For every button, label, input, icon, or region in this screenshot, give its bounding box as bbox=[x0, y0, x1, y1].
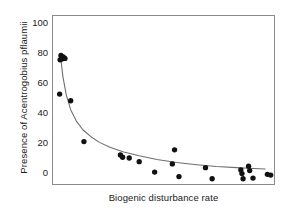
data-point bbox=[127, 155, 132, 160]
data-point bbox=[137, 159, 142, 164]
y-tick-label: 0 bbox=[26, 168, 48, 178]
data-point bbox=[250, 175, 255, 180]
data-point bbox=[172, 147, 177, 152]
data-points-group bbox=[57, 53, 273, 182]
fit-curve-group bbox=[61, 56, 266, 169]
y-tick-label: 60 bbox=[26, 78, 48, 88]
y-tick-label: 40 bbox=[26, 108, 48, 118]
data-point bbox=[62, 56, 67, 61]
data-point bbox=[209, 176, 214, 181]
y-tick-label: 20 bbox=[26, 138, 48, 148]
data-point bbox=[170, 161, 175, 166]
plot-area bbox=[52, 15, 275, 185]
data-point bbox=[68, 98, 73, 103]
y-tick-label: 80 bbox=[26, 48, 48, 58]
data-point bbox=[246, 163, 251, 168]
data-point bbox=[239, 171, 244, 176]
data-point bbox=[152, 169, 157, 174]
plot-canvas bbox=[53, 16, 274, 184]
chart-figure: Presence of Acentrogobius pflaumii 02040… bbox=[0, 0, 290, 221]
data-point bbox=[268, 172, 273, 177]
data-point bbox=[176, 174, 181, 179]
data-point bbox=[203, 165, 208, 170]
x-axis-label: Biogenic disturbance rate bbox=[52, 192, 275, 203]
data-point bbox=[247, 168, 252, 173]
fit-curve bbox=[61, 56, 266, 169]
y-axis-tick-labels: 020406080100 bbox=[26, 0, 48, 221]
y-tick-label: 100 bbox=[26, 18, 48, 28]
data-point bbox=[57, 91, 62, 96]
data-point bbox=[120, 155, 125, 160]
data-point bbox=[81, 139, 86, 144]
data-point bbox=[240, 176, 245, 181]
